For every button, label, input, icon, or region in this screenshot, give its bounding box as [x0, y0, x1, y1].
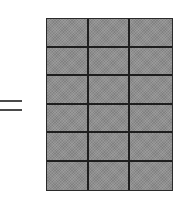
grid-cell — [47, 133, 89, 162]
grid-cell — [89, 48, 131, 77]
grid-cell — [89, 162, 131, 191]
grid-cell — [47, 162, 89, 191]
equals-bar-bottom — [0, 109, 22, 111]
grid-cell — [130, 48, 172, 77]
grid-cell — [89, 76, 131, 105]
grid-cell — [47, 48, 89, 77]
grid-cell — [130, 76, 172, 105]
grid-cell — [130, 19, 172, 48]
grid-cell — [130, 105, 172, 134]
shaded-grid — [46, 18, 173, 191]
grid-cell — [89, 19, 131, 48]
grid-cell — [47, 105, 89, 134]
grid-cell — [130, 133, 172, 162]
grid-cell — [89, 105, 131, 134]
grid-cell — [47, 19, 89, 48]
grid-cell — [89, 133, 131, 162]
equals-sign — [0, 100, 22, 112]
grid-cell — [130, 162, 172, 191]
equals-bar-top — [0, 100, 22, 102]
grid-cell — [47, 76, 89, 105]
